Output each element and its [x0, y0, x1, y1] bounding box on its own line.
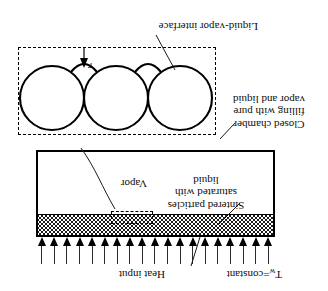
- heat-input-arrow: [180, 237, 181, 264]
- particle-detail-graphics: [17, 46, 215, 134]
- figure-canvas: Tw=constant Heat input Sintered particle…: [0, 0, 328, 291]
- heat-input-arrow-row: [36, 237, 275, 264]
- heat-input-arrow: [66, 237, 67, 264]
- closed-chamber-label: Closed chamber filling with pure vapor a…: [218, 94, 320, 132]
- heat-arrow-head: [239, 237, 247, 246]
- heat-arrow-head: [38, 237, 46, 246]
- magnified-detail-box: [18, 47, 216, 135]
- heat-arrow-shaft: [255, 245, 256, 264]
- heat-arrow-shaft: [230, 245, 231, 264]
- closed-chamber-line-1: Closed chamber: [218, 119, 320, 132]
- heat-input-arrow: [255, 237, 256, 264]
- wall-temperature-symbol: T: [275, 269, 282, 281]
- radius-arrow-head: [80, 58, 88, 68]
- wall-temperature-label: Tw=constant: [227, 265, 282, 282]
- wall-temperature-subscript: w: [269, 267, 275, 276]
- heat-arrow-head: [164, 237, 172, 246]
- wick-description-line-3: liquid: [146, 175, 266, 188]
- heat-input-arrow: [155, 237, 156, 264]
- heat-input-arrow: [129, 237, 130, 264]
- heat-arrow-shaft: [104, 245, 105, 264]
- heat-input-arrow: [268, 237, 269, 264]
- heat-arrow-head: [189, 237, 197, 246]
- heat-input-arrow: [117, 237, 118, 264]
- heat-input-arrow: [243, 237, 244, 264]
- wick-description-label: Sintered particles saturated with liquid: [146, 175, 266, 213]
- detail-callout-marker: [111, 211, 153, 224]
- heat-input-arrow: [167, 237, 168, 264]
- closed-chamber-line-3: vapor and liquid: [218, 94, 320, 107]
- heat-arrow-head: [113, 237, 121, 246]
- heat-arrow-shaft: [142, 245, 143, 264]
- heat-arrow-head: [88, 237, 96, 246]
- heat-arrow-head: [226, 237, 234, 246]
- heat-input-arrow: [54, 237, 55, 264]
- sintered-particle: [20, 66, 84, 130]
- heat-arrow-head: [101, 237, 109, 246]
- heat-input-arrow: [92, 237, 93, 264]
- vapor-region-label: Vapor: [121, 178, 147, 191]
- heat-arrow-shaft: [54, 245, 55, 264]
- sintered-wick-layer: [38, 214, 273, 235]
- heat-arrow-shaft: [155, 245, 156, 264]
- liquid-vapor-interface-label: Liquid-vapor interface: [159, 21, 258, 34]
- heat-arrow-shaft: [205, 245, 206, 264]
- wick-description-line-1: Sintered particles: [146, 200, 266, 213]
- heat-input-arrow: [217, 237, 218, 264]
- heat-arrow-shaft: [180, 245, 181, 264]
- heat-arrow-shaft: [117, 245, 118, 264]
- wick-description-line-2: saturated with: [146, 187, 266, 200]
- heat-arrow-head: [176, 237, 184, 246]
- liquid-vapor-meniscus: [71, 64, 97, 72]
- sintered-particle: [84, 66, 148, 130]
- meniscus-radius-label: r: [88, 60, 92, 73]
- liquid-vapor-meniscus: [135, 64, 161, 72]
- heat-input-arrow: [142, 237, 143, 264]
- heat-arrow-shaft: [66, 245, 67, 264]
- heat-arrow-head: [63, 237, 71, 246]
- heat-arrow-head: [151, 237, 159, 246]
- heat-arrow-head: [201, 237, 209, 246]
- heat-input-arrow: [79, 237, 80, 264]
- heat-input-label: Heat input: [119, 269, 165, 282]
- heat-arrow-shaft: [217, 245, 218, 264]
- heat-input-arrow: [104, 237, 105, 264]
- heat-arrow-head: [138, 237, 146, 246]
- heat-input-arrow: [230, 237, 231, 264]
- heat-arrow-head: [126, 237, 134, 246]
- heat-arrow-shaft: [167, 245, 168, 264]
- wall-temperature-equation: =constant: [227, 269, 270, 281]
- heat-arrow-head: [264, 237, 272, 246]
- sintered-particle: [148, 66, 212, 130]
- heat-arrow-head: [50, 237, 58, 246]
- heat-arrow-head: [252, 237, 260, 246]
- heat-arrow-shaft: [192, 245, 193, 264]
- closed-chamber-line-2: filling with pure: [218, 106, 320, 119]
- heat-arrow-shaft: [41, 245, 42, 264]
- heat-arrow-shaft: [129, 245, 130, 264]
- heat-arrow-shaft: [79, 245, 80, 264]
- heat-input-arrow: [192, 237, 193, 264]
- heat-arrow-head: [214, 237, 222, 246]
- heat-arrow-shaft: [92, 245, 93, 264]
- heat-arrow-shaft: [268, 245, 269, 264]
- heat-arrow-shaft: [243, 245, 244, 264]
- heat-input-arrow: [205, 237, 206, 264]
- heat-arrow-head: [76, 237, 84, 246]
- heat-input-arrow: [41, 237, 42, 264]
